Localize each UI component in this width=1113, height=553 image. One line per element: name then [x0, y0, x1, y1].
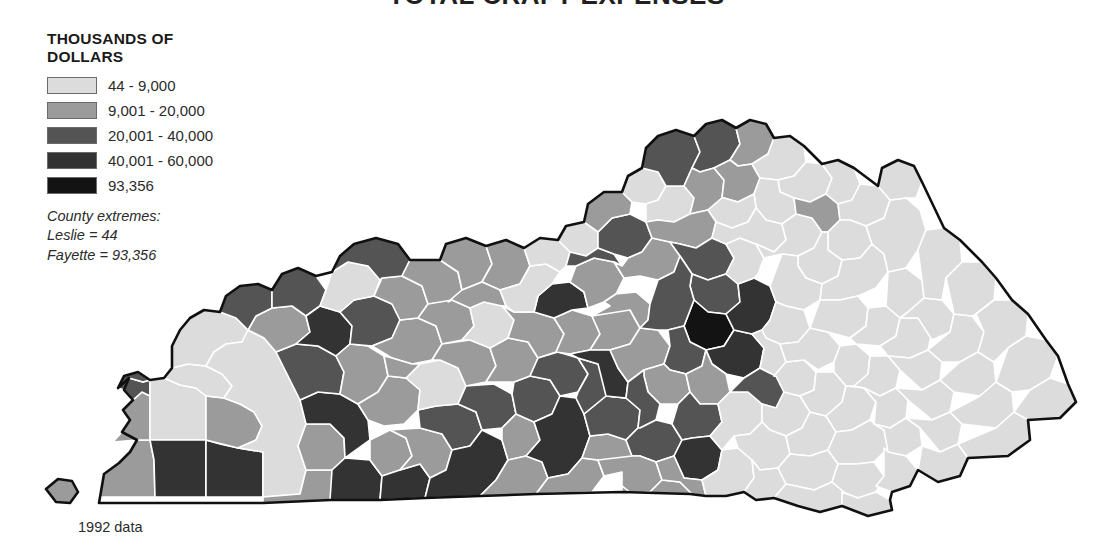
legend-label-class-3: 20,001 - 40,000 — [108, 127, 213, 144]
legend-label-class-2: 9,001 - 20,000 — [108, 102, 205, 119]
legend: THOUSANDS OF DOLLARS 44 - 9,000 9,001 - … — [47, 30, 297, 265]
county-region — [150, 440, 206, 497]
legend-row[interactable]: 20,001 - 40,000 — [47, 123, 297, 148]
legend-row[interactable]: 40,001 - 60,000 — [47, 148, 297, 173]
data-year-footnote: 1992 data — [78, 519, 143, 535]
legend-label-class-4: 40,001 - 60,000 — [108, 152, 213, 169]
legend-label-class-5: 93,356 — [108, 177, 154, 194]
legend-swatch-class-4 — [47, 152, 97, 169]
county-region — [598, 456, 662, 494]
legend-label-class-1: 44 - 9,000 — [108, 77, 176, 94]
legend-row[interactable]: 9,001 - 20,000 — [47, 98, 297, 123]
county-region — [842, 492, 892, 516]
legend-note-line3: Fayette = 93,356 — [47, 246, 297, 265]
county-region — [99, 440, 155, 497]
legend-heading-line1: THOUSANDS OF — [47, 30, 297, 48]
legend-row[interactable]: 93,356 — [47, 173, 297, 198]
legend-heading-line2: DOLLARS — [47, 48, 297, 66]
county-region — [46, 479, 78, 503]
legend-note: County extremes: Leslie = 44 Fayette = 9… — [47, 207, 297, 265]
legend-note-line2: Leslie = 44 — [47, 226, 297, 245]
page-title: TOTAL CRAFT EXPENSES — [0, 0, 1113, 11]
legend-swatch-class-5 — [47, 177, 97, 194]
legend-note-line1: County extremes: — [47, 207, 297, 226]
legend-swatch-class-1 — [47, 77, 97, 94]
county-region — [878, 160, 922, 200]
legend-row[interactable]: 44 - 9,000 — [47, 73, 297, 98]
legend-heading: THOUSANDS OF DOLLARS — [47, 30, 297, 66]
legend-swatch-class-2 — [47, 102, 97, 119]
legend-swatch-class-3 — [47, 127, 97, 144]
